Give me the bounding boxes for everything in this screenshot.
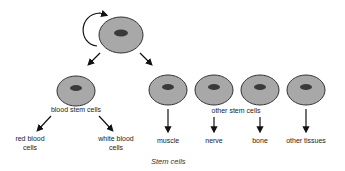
stem-cell-diagram	[0, 0, 345, 171]
other-stem-cell-3	[241, 75, 279, 105]
root-stem-cell	[99, 17, 143, 53]
red-blood-cells-label: red blood cells	[10, 134, 50, 152]
other-stem-cell-4	[287, 75, 325, 105]
nerve-label: nerve	[194, 136, 234, 145]
other-stem-cell-2	[195, 75, 233, 105]
other-stem-cell-1	[149, 75, 187, 105]
blood-stem-cell	[57, 76, 95, 106]
muscle-label: muscle	[148, 136, 188, 145]
other-tissues-label: other tissues	[280, 136, 332, 145]
blood-stem-cells-label: blood stem cells	[40, 105, 112, 114]
white-blood-cells-label: white blood cells	[92, 134, 140, 152]
other-stem-cells-label: other stem cells	[200, 106, 272, 115]
bone-label: bone	[240, 136, 280, 145]
diagram-caption: Stem cells	[151, 157, 186, 166]
